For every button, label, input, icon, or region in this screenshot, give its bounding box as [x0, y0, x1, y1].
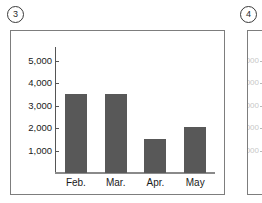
bar: [144, 139, 166, 173]
y-axis-tick-label-wrap: 3,000: [11, 101, 52, 111]
bar: [184, 127, 206, 173]
x-axis-tick-label: Apr.: [136, 177, 176, 188]
x-axis-tick-label: Feb.: [56, 177, 96, 188]
bar: [105, 94, 127, 173]
next-chart-panel-partial: 5,0004,0003,0002,0001,000: [247, 30, 262, 195]
bar: [65, 94, 87, 173]
next-panel-ghost-label: 2,000: [247, 123, 259, 132]
bars-layer: [56, 47, 215, 173]
next-panel-ghost-label: 5,000: [247, 56, 259, 65]
y-axis-tick-label: 5,000: [28, 56, 52, 66]
next-panel-ghost-label: 1,000: [247, 146, 259, 155]
y-axis-tick-label: 4,000: [28, 78, 52, 88]
y-axis-tick-label: 3,000: [28, 101, 52, 111]
next-panel-ghost-label: 4,000: [247, 78, 259, 87]
x-axis-tick-label: Mar.: [96, 177, 136, 188]
next-panel-ghost-tick: [260, 106, 262, 107]
next-panel-ghost-tick: [260, 83, 262, 84]
y-axis-tick-label-wrap: 4,000: [11, 78, 52, 88]
next-panel-ghost-tick: [260, 128, 262, 129]
bar-chart-panel: 1,0002,0003,0004,0005,000 Feb.Mar.Apr.Ma…: [10, 30, 225, 195]
x-axis-tick-label: May: [175, 177, 215, 188]
next-panel-ghost-label: 3,000: [247, 101, 259, 110]
y-axis-tick-label-wrap: 5,000: [11, 56, 52, 66]
figure-number-badge-3: 3: [7, 6, 24, 23]
y-axis-tick-label-wrap: 1,000: [11, 146, 52, 156]
next-panel-ghost-tick: [260, 61, 262, 62]
next-panel-ghost-tick: [260, 151, 262, 152]
y-axis-tick-label-wrap: 2,000: [11, 123, 52, 133]
figure-number-badge-4: 4: [240, 6, 257, 23]
y-axis-tick-label: 1,000: [28, 146, 52, 156]
y-axis-tick-label: 2,000: [28, 123, 52, 133]
